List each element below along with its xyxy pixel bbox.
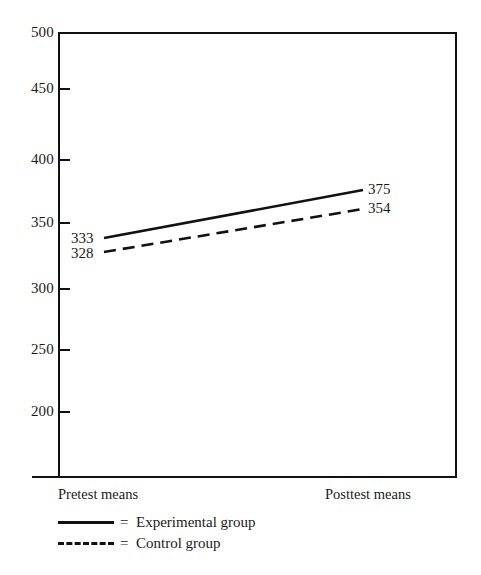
plot-area-frame: [58, 32, 457, 478]
y-axis-tick-200: [58, 411, 70, 413]
x-axis-label-posttest: Posttest means: [325, 486, 411, 502]
y-axis-tick-250: [58, 349, 70, 351]
y-axis-label-300: 300: [8, 281, 54, 296]
point-label-pretest-control: 328: [71, 246, 94, 261]
y-axis-tick-500: [58, 32, 70, 34]
legend-label-control: Control group: [136, 533, 221, 554]
legend-dashed-line-icon: [58, 542, 114, 545]
x-axis-label-pretest: Pretest means: [58, 486, 138, 502]
y-axis-label-450: 450: [8, 81, 54, 96]
legend-item-control: = Control group: [58, 533, 388, 554]
x-axis-baseline-extension: [32, 476, 60, 478]
y-axis-label-350: 350: [8, 215, 54, 230]
legend-equals-control: =: [120, 533, 128, 554]
y-axis-tick-300: [58, 288, 70, 290]
legend-solid-line-icon: [58, 521, 114, 524]
y-axis-label-500: 500: [8, 25, 54, 40]
point-label-pretest-experimental: 333: [71, 231, 94, 246]
line-chart-figure: 500 450 400 350 300 250 200 333 328 375 …: [0, 0, 481, 575]
y-axis-tick-400: [58, 159, 70, 161]
y-axis-tick-450: [58, 88, 70, 90]
chart-legend: = Experimental group = Control group: [58, 512, 388, 554]
point-label-posttest-experimental: 375: [368, 182, 391, 197]
y-axis-label-200: 200: [8, 404, 54, 419]
y-axis-label-400: 400: [8, 152, 54, 167]
legend-equals-experimental: =: [120, 512, 128, 533]
y-axis-tick-350: [58, 222, 70, 224]
legend-label-experimental: Experimental group: [136, 512, 256, 533]
y-axis-label-250: 250: [8, 342, 54, 357]
point-label-posttest-control: 354: [368, 201, 391, 216]
legend-item-experimental: = Experimental group: [58, 512, 388, 533]
